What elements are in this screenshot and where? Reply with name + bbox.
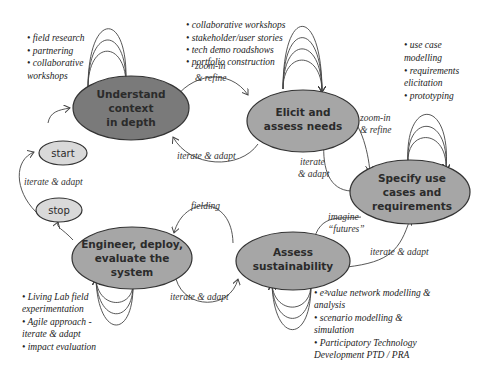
node-understand-line2: context — [109, 102, 154, 114]
node-engineer-line2: evaluate the — [95, 252, 170, 264]
annotation-specify-line: elicitation — [404, 78, 443, 88]
annotation-understand-line: • collaborative — [27, 58, 83, 68]
process-cycle-diagram: zoom-in & refine iterate & adapt zoom-in… — [0, 0, 482, 370]
node-understand-line3: in depth — [106, 116, 155, 128]
annotation-assess-line: Development PTD / PRA — [313, 350, 409, 360]
edge-label-fielding: fielding — [191, 201, 220, 211]
node-assess-line2: sustainability — [253, 260, 334, 272]
edge-label-elicit-understand: iterate & adapt — [177, 151, 236, 161]
annotation-specify-line: modelling — [404, 53, 442, 63]
node-engineer-line3: system — [111, 266, 153, 278]
node-understand: Understand context in depth — [73, 76, 189, 140]
annotation-understand-line: • partnering — [27, 46, 74, 56]
node-assess-line1: Assess — [273, 246, 313, 258]
annotation-elicit-line: • collaborative workshops — [186, 20, 286, 30]
node-engineer: Engineer, deploy, evaluate the system — [72, 227, 192, 289]
annotation-elicit-line: • tech demo roadshows — [186, 45, 274, 55]
annotation-engineer-line: • Agile approach - — [22, 317, 92, 327]
annotation-elicit: • collaborative workshops • stakeholder/… — [186, 20, 286, 67]
node-specify-line1: Specify use — [378, 172, 446, 184]
annotation-engineer-line: iterate & adapt — [22, 329, 81, 339]
edge-label-understand-elicit-2: & refine — [195, 73, 227, 83]
annotation-assess-line: • scenario modelling & — [314, 313, 403, 323]
annotation-assess-line: simulation — [314, 325, 354, 335]
edge-label-specify-assess-1: imagine — [328, 212, 359, 222]
node-elicit-line1: Elicit and — [276, 106, 331, 118]
annotation-understand: • field research • partnering • collabor… — [27, 33, 85, 81]
node-specify-line2: cases and — [383, 186, 442, 198]
edge-label-specify-elicit-2: & adapt — [298, 169, 330, 179]
annotation-engineer-line: • Living Lab field — [22, 292, 89, 302]
edge-label-stop-start: iterate & adapt — [24, 177, 83, 187]
annotation-assess-line: analysis — [314, 300, 345, 310]
node-start: start — [39, 141, 87, 165]
node-assess: Assess sustainability — [236, 232, 350, 290]
annotation-elicit-line: • stakeholder/user stories — [186, 33, 283, 43]
annotation-understand-line: • field research — [27, 33, 85, 43]
node-stop: stop — [36, 198, 82, 222]
annotation-specify-line: • use case — [404, 40, 442, 50]
edge-label-elicit-specify-2: & refine — [360, 125, 392, 135]
node-understand-line1: Understand — [96, 88, 165, 100]
annotation-specify-line: • prototyping — [404, 91, 454, 101]
annotation-engineer-line: experimentation — [22, 304, 84, 314]
annotation-specify: • use case modelling • requirements elic… — [404, 40, 459, 101]
node-elicit-line2: assess needs — [264, 120, 342, 132]
node-start-label: start — [51, 148, 74, 159]
edge-label-elicit-specify-1: zoom-in — [359, 113, 391, 123]
edge-label-engineer-assess: iterate & adapt — [170, 292, 229, 302]
annotation-engineer-line: • impact evaluation — [22, 342, 96, 352]
node-elicit: Elicit and assess needs — [247, 90, 359, 152]
edge-label-specify-assess-2: “futures” — [328, 224, 365, 234]
edge-label-specify-elicit-1: iterate — [300, 157, 325, 167]
annotation-assess: • e³value network modelling & analysis •… — [313, 288, 431, 360]
node-specify: Specify use cases and requirements — [350, 160, 470, 224]
annotation-engineer: • Living Lab field experimentation • Agi… — [22, 292, 96, 352]
elicit-self-loops — [283, 26, 322, 92]
annotation-understand-line: workshops — [27, 71, 68, 81]
annotation-assess-line: • Participatory Technology — [314, 338, 417, 348]
annotation-specify-line: • requirements — [404, 66, 459, 76]
node-specify-line3: requirements — [372, 200, 452, 212]
node-stop-label: stop — [48, 205, 70, 216]
node-engineer-line1: Engineer, deploy, — [81, 238, 183, 250]
annotation-assess-line: • e³value network modelling & — [314, 288, 431, 298]
edge-label-assess-specify: iterate & adapt — [370, 247, 429, 257]
annotation-elicit-line: • portfolio construction — [186, 57, 275, 67]
